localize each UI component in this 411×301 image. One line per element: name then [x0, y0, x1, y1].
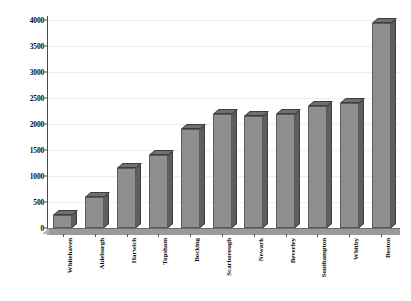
- bar-front-face: [244, 116, 263, 228]
- bar-side-face: [200, 125, 205, 228]
- x-axis-category-label: Boston: [384, 238, 392, 258]
- x-axis-category-label: Newark: [257, 238, 265, 261]
- bar: [117, 168, 136, 228]
- x-axis-category-label: Harwich: [130, 238, 138, 263]
- bar-front-face: [53, 215, 72, 228]
- x-axis-tick-mark: [127, 234, 128, 237]
- x-axis-tick-mark: [95, 234, 96, 237]
- y-axis-tick-label: 2000: [30, 120, 44, 129]
- bar: [181, 129, 200, 228]
- bar: [244, 116, 263, 228]
- x-axis-category-label: Scarborough: [225, 238, 233, 276]
- x-axis-tick-mark: [349, 234, 350, 237]
- y-axis-tick-label: 4000: [30, 16, 44, 25]
- bar: [340, 103, 359, 228]
- y-axis-tick-label: 3500: [30, 42, 44, 51]
- y-axis-tick-label: 3000: [30, 68, 44, 77]
- bar-side-face: [168, 151, 173, 228]
- x-axis-category-label: Bocking: [193, 238, 201, 262]
- bar-side-face: [359, 99, 364, 228]
- bar: [85, 197, 104, 228]
- bar-side-face: [136, 164, 141, 228]
- x-axis-tick-mark: [222, 234, 223, 237]
- y-axis-tick-label: 500: [33, 198, 44, 207]
- bar-front-face: [117, 168, 136, 228]
- bar: [53, 215, 72, 228]
- bar-front-face: [276, 114, 295, 228]
- bar-front-face: [340, 103, 359, 228]
- bar-side-face: [104, 193, 109, 228]
- bar: [308, 106, 327, 228]
- x-axis-category-label: Beverley: [289, 238, 297, 263]
- x-axis-category-label: Southampton: [320, 238, 328, 277]
- y-axis-tick-label: 2500: [30, 94, 44, 103]
- bar-front-face: [213, 114, 232, 228]
- bar-side-face: [295, 109, 300, 228]
- x-axis-tick-mark: [254, 234, 255, 237]
- x-axis-category-label: Whitby: [352, 238, 360, 260]
- bar-front-face: [181, 129, 200, 228]
- x-axis-tick-mark: [190, 234, 191, 237]
- bar-front-face: [372, 23, 391, 228]
- bar: [149, 155, 168, 228]
- bar-side-face: [232, 109, 237, 228]
- x-axis-category-label: Topsham: [161, 238, 169, 265]
- bar: [213, 114, 232, 228]
- x-axis-tick-mark: [317, 234, 318, 237]
- x-axis-tick-mark: [286, 234, 287, 237]
- bar-side-face: [263, 112, 268, 228]
- bar: [276, 114, 295, 228]
- x-axis-tick-mark: [63, 234, 64, 237]
- bar-chart: 05001000150020002500300035004000 Whiteha…: [0, 0, 411, 301]
- bar-side-face: [391, 18, 396, 228]
- x-axis-category-label: Aldeburgh: [98, 238, 106, 269]
- y-axis-tick-label: 1500: [30, 146, 44, 155]
- bar-front-face: [149, 155, 168, 228]
- bar-front-face: [85, 197, 104, 228]
- y-axis-tick-label: 1000: [30, 172, 44, 181]
- bar-front-face: [308, 106, 327, 228]
- x-axis-category-label: Whitehaven: [66, 238, 74, 273]
- x-axis-tick-mark: [158, 234, 159, 237]
- bar: [372, 23, 391, 228]
- bar-side-face: [327, 102, 332, 228]
- x-axis-tick-mark: [381, 234, 382, 237]
